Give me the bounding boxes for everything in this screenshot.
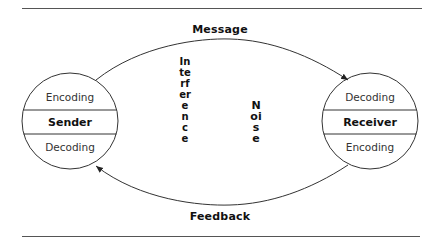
message-label: Message [192,23,248,36]
noise-label: Noise [250,100,262,144]
sender-title: Sender [48,116,92,129]
sender-encoding-label: Encoding [46,91,94,103]
receiver-encoding-label: Encoding [346,141,394,153]
receiver-decoding-label: Decoding [345,91,395,103]
receiver-title: Receiver [343,116,397,129]
message-arrow [96,39,348,80]
sender-decoding-label: Decoding [45,141,95,153]
feedback-label: Feedback [190,210,251,223]
feedback-arrow [96,165,348,205]
interference-label: Interference [179,56,191,144]
